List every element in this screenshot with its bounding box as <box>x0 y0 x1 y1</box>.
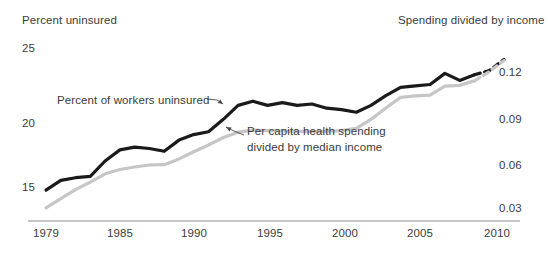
x-axis-tick-1979: 1979 <box>33 226 59 240</box>
chart-container: Percent uninsured 25 20 15 Spending divi… <box>0 0 548 255</box>
x-axis-tick-1995: 1995 <box>257 226 283 240</box>
annotation-gray-line-1: Per capita health spending <box>247 124 386 140</box>
annotation-black-series: Percent of workers uninsured <box>57 93 209 107</box>
y-axis-left-tick-25: 25 <box>22 41 35 55</box>
annotation-gray-series: Per capita health spending divided by me… <box>247 124 386 155</box>
black-annotation-arrowhead <box>218 100 223 104</box>
x-axis-tick-2005: 2005 <box>407 226 433 240</box>
y-axis-right-tick-012: 0.12 <box>499 65 522 79</box>
y-axis-right-tick-009: 0.09 <box>499 112 522 126</box>
x-axis-tick-1990: 1990 <box>181 226 207 240</box>
y-axis-left-tick-20: 20 <box>22 116 35 130</box>
y-axis-right-title: Spending divided by income <box>398 13 544 27</box>
x-axis-tick-1985: 1985 <box>107 226 133 240</box>
y-axis-right-tick-006: 0.06 <box>499 158 522 172</box>
y-axis-left-title: Percent uninsured <box>22 13 117 27</box>
y-axis-right-tick-003: 0.03 <box>499 201 522 215</box>
y-axis-left-tick-15: 15 <box>22 180 35 194</box>
annotation-gray-line-2: divided by median income <box>247 140 386 156</box>
x-axis-tick-2010: 2010 <box>484 226 510 240</box>
x-axis-tick-2000: 2000 <box>332 226 358 240</box>
